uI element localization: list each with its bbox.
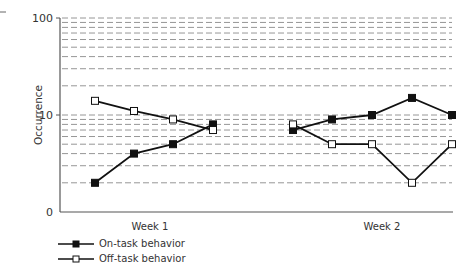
filled-square-marker-icon (170, 141, 177, 148)
filled-square-marker-icon (449, 112, 456, 119)
open-square-marker-icon (290, 121, 297, 128)
line-chart: 100 10 0 Occurrence Week 1 Week 2 (0, 0, 474, 273)
legend-label-on-task: On-task behavior (99, 238, 185, 249)
filled-square-marker-icon (131, 150, 138, 157)
legend-label-off-task: Off-task behavior (99, 253, 186, 264)
open-square-marker-icon (131, 107, 138, 114)
filled-square-marker-icon (58, 239, 94, 249)
legend-item-on-task: On-task behavior (58, 236, 186, 251)
y-tick-100: 100 (32, 12, 53, 25)
open-square-marker-icon (449, 141, 456, 148)
x-label-week-2: Week 2 (364, 221, 401, 232)
open-square-marker-icon (58, 254, 94, 264)
open-square-marker-icon (92, 97, 99, 104)
open-square-marker-icon (369, 141, 376, 148)
series-layer (92, 94, 456, 186)
gridlines (62, 18, 452, 183)
open-square-marker-icon (210, 127, 217, 134)
legend: On-task behavior Off-task behavior (58, 236, 186, 266)
y-tick-0: 0 (46, 206, 53, 219)
open-square-marker-icon (329, 141, 336, 148)
filled-square-marker-icon (409, 94, 416, 101)
filled-square-marker-icon (329, 116, 336, 123)
x-label-week-1: Week 1 (132, 221, 169, 232)
filled-square-marker-icon (92, 179, 99, 186)
open-square-marker-icon (409, 179, 416, 186)
legend-item-off-task: Off-task behavior (58, 251, 186, 266)
y-axis-label: Occurrence (32, 85, 44, 145)
open-square-marker-icon (170, 116, 177, 123)
filled-square-marker-icon (369, 112, 376, 119)
